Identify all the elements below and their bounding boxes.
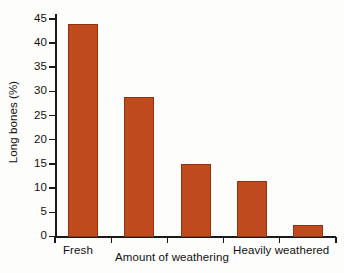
bar-5 <box>293 225 323 237</box>
y-tick-label-30: 30 <box>34 85 47 97</box>
y-tick-label-35: 35 <box>34 61 47 73</box>
bar-1 <box>68 24 98 237</box>
x-tick-4 <box>279 237 280 243</box>
x-tick-5 <box>335 237 336 243</box>
x-tick-2 <box>167 237 168 243</box>
bar-2 <box>124 97 154 237</box>
x-tick-1 <box>111 237 112 243</box>
x-tick-0 <box>54 237 55 243</box>
y-tick-label-45: 45 <box>34 13 47 25</box>
y-tick-label-20: 20 <box>34 134 47 146</box>
bar-chart-figure: 051015202530354045 Fresh Heavily weather… <box>0 0 344 273</box>
y-tick-label-10: 10 <box>34 182 47 194</box>
y-tick-label-0: 0 <box>41 230 48 242</box>
x-tick-3 <box>223 237 224 243</box>
bars-group <box>55 14 336 237</box>
y-tick-label-5: 5 <box>41 206 48 218</box>
x-axis-title: Amount of weathering <box>0 251 344 263</box>
y-tick-label-15: 15 <box>34 158 47 170</box>
y-tick-label-25: 25 <box>34 110 47 122</box>
y-axis-title: Long bones (%) <box>7 62 19 182</box>
bar-4 <box>237 181 267 237</box>
y-tick-label-40: 40 <box>34 37 47 49</box>
bar-3 <box>181 164 211 237</box>
plot-area <box>55 14 336 237</box>
